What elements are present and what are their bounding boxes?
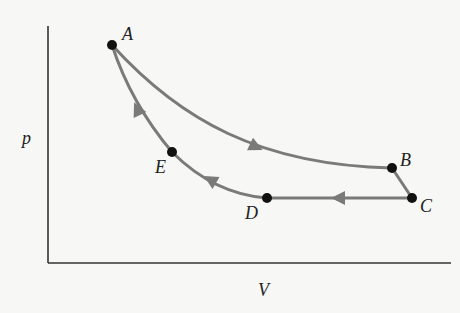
pv-diagram: p V A B C D E [0, 0, 460, 313]
arrow-c-d-icon [331, 191, 345, 205]
point-d [262, 193, 272, 203]
label-a: A [121, 24, 134, 44]
label-b: B [400, 150, 411, 170]
axes [48, 26, 451, 263]
label-c: C [420, 196, 433, 216]
state-points [107, 40, 417, 203]
point-c [407, 193, 417, 203]
segment-d-e [172, 152, 267, 198]
point-a [107, 40, 117, 50]
point-e [167, 147, 177, 157]
arrow-d-e-icon [200, 170, 219, 189]
segment-e-a [112, 45, 172, 152]
label-d: D [244, 203, 258, 223]
x-axis-label: V [258, 280, 271, 300]
y-axis-label: p [20, 128, 31, 148]
direction-arrows [128, 99, 345, 205]
segment-b-c [392, 168, 412, 198]
point-b [387, 163, 397, 173]
label-e: E [154, 157, 166, 177]
